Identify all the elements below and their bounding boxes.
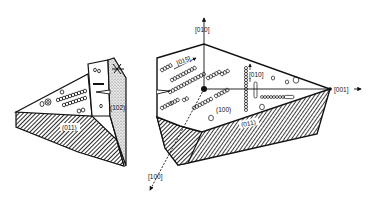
face-label-102: (102) xyxy=(110,104,125,112)
axis-label-001: [001] xyxy=(334,86,349,94)
left-front-slab xyxy=(88,60,110,116)
right-crystal: [010] [001] [100] xyxy=(148,18,361,190)
face-label-100: (100) xyxy=(216,106,231,114)
left-face-label-011: (011) xyxy=(62,124,77,132)
axis-001-dot xyxy=(328,87,332,91)
crystal-diagram: (102) (011) [010] [001] [100] xyxy=(0,0,370,200)
label-010-small: [010] xyxy=(249,71,264,79)
axis-label-100: [100] xyxy=(148,173,163,181)
origin-dot xyxy=(201,86,207,92)
left-crystal: (102) (011) xyxy=(16,58,126,166)
axis-label-010: [010] xyxy=(195,26,210,34)
